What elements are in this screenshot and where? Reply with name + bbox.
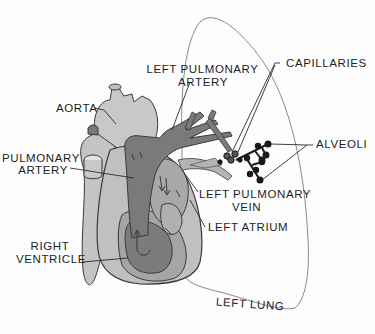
label-capillaries: CAPILLARIES xyxy=(286,57,367,70)
label-left-pulmonary-artery-line2: ARTERY xyxy=(173,76,233,89)
label-left-pulmonary-artery-line1: LEFT PULMONARY xyxy=(145,63,260,76)
label-aorta: AORTA xyxy=(56,102,98,115)
label-right-ventricle-line2: VENTRICLE xyxy=(16,253,84,266)
aorta-branch xyxy=(109,84,121,90)
capillaries-cluster xyxy=(218,151,242,164)
pulmonary-circulation-diagram: AORTA LEFT PULMONARY ARTERY CAPILLARIES … xyxy=(0,0,375,334)
label-right-ventricle-line1: RIGHT xyxy=(20,240,80,253)
label-alveoli: ALVEOLI xyxy=(316,138,367,151)
label-pulmonary-artery-line2: ARTERY xyxy=(0,164,68,177)
label-left-pulmonary-vein-line1: LEFT PULMONARY xyxy=(199,188,311,201)
label-left-pulmonary-vein-line2: VEIN xyxy=(232,201,261,214)
label-left-atrium: LEFT ATRIUM xyxy=(208,221,288,234)
